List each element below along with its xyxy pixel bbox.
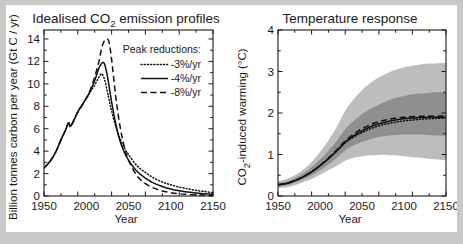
emissions-chart-title: Idealised CO2 emission profiles bbox=[32, 11, 220, 29]
legend-label-solid: -4%/yr bbox=[171, 72, 202, 84]
temperature-plot-area: 1950200020502100215001234 bbox=[265, 24, 457, 212]
legend-label-dotted: -3%/yr bbox=[171, 58, 202, 70]
temperature-y-axis-label: CO2-induced warming (°C) bbox=[236, 48, 252, 185]
temperature-chart-title: Temperature response bbox=[282, 11, 417, 26]
y-tick-label: 3 bbox=[268, 66, 274, 78]
y-tick-label: 4 bbox=[268, 24, 275, 36]
x-tick-label: 2100 bbox=[391, 200, 417, 212]
emissions-panel: Idealised CO2 emission profiles Year Bil… bbox=[6, 5, 232, 232]
emissions-legend: Peak reductions:-3%/yr-4%/yr-8%/yr bbox=[123, 43, 202, 98]
temperature-x-axis-label: Year bbox=[338, 213, 361, 225]
y-tick-label: 2 bbox=[268, 107, 274, 119]
emissions-y-axis-label: Billion tonnes carbon per year (Gt C / y… bbox=[7, 14, 19, 220]
y-tick-label: 8 bbox=[34, 100, 40, 112]
y-tick-label: 12 bbox=[27, 55, 40, 67]
y-tick-label: 1 bbox=[268, 149, 274, 161]
emissions-x-axis-label: Year bbox=[114, 213, 137, 225]
x-tick-label: 2050 bbox=[349, 200, 375, 212]
y-tick-label: 0 bbox=[34, 190, 40, 202]
x-tick-label: 2150 bbox=[200, 200, 226, 212]
x-tick-label: 2050 bbox=[116, 200, 142, 212]
y-tick-label: 4 bbox=[34, 145, 41, 157]
figure-canvas: Idealised CO2 emission profiles Year Bil… bbox=[6, 5, 457, 232]
y-tick-label: 2 bbox=[34, 168, 40, 180]
y-tick-label: 6 bbox=[34, 123, 40, 135]
x-tick-label: 2150 bbox=[433, 200, 457, 212]
legend-heading: Peak reductions: bbox=[123, 43, 201, 55]
x-tick-label: 2100 bbox=[158, 200, 184, 212]
x-tick-label: 2000 bbox=[307, 200, 333, 212]
y-tick-label: 14 bbox=[27, 33, 40, 45]
temperature-panel: Temperature response Year CO2-induced wa… bbox=[232, 5, 457, 232]
x-tick-label: 2000 bbox=[73, 200, 99, 212]
emissions-chart-svg: Idealised CO2 emission profiles Year Bil… bbox=[6, 5, 232, 232]
y-tick-label: 0 bbox=[268, 190, 274, 202]
y-tick-label: 10 bbox=[27, 78, 40, 90]
temperature-chart-svg: Temperature response Year CO2-induced wa… bbox=[232, 5, 457, 232]
legend-label-dashed: -8%/yr bbox=[171, 86, 202, 98]
